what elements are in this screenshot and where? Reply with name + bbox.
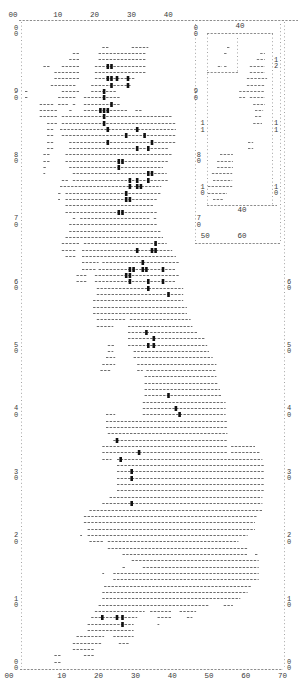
y-tick-label-left: 00 — [14, 25, 19, 38]
inset-y-label: 70 — [197, 215, 202, 228]
y-tick-label-left: 50 — [14, 342, 19, 355]
inset-x-label: 60 — [238, 232, 247, 240]
y-tick-label-right: 00 — [287, 659, 292, 672]
y-tick-label-left: 10 — [14, 596, 19, 609]
y-tick-label-right: 50 — [287, 342, 292, 355]
x-tick-label-top: 00 — [8, 11, 17, 19]
y-tick-label-right: 40 — [287, 405, 292, 418]
y-tick-label-left: 40 — [14, 405, 19, 418]
x-tick-label-bottom: 40 — [168, 672, 177, 680]
tick-labels: 0010203040506070001020304000908070605040… — [0, 0, 298, 691]
x-tick-label-top: 40 — [164, 11, 173, 19]
x-tick-label-top: 10 — [53, 11, 62, 19]
inset-y-label: 12 — [274, 57, 279, 70]
y-tick-label-left: 60 — [14, 279, 19, 292]
x-tick-label-bottom: 10 — [57, 672, 66, 680]
x-tick-label-bottom: 00 — [4, 672, 13, 680]
inset-y-label: 10 — [274, 184, 279, 197]
y-tick-label-left: 90 — [14, 88, 19, 101]
y-tick-label-right: 10 — [287, 596, 292, 609]
inset-y-label: 00 — [194, 25, 199, 38]
y-tick-label-left: 80 — [14, 152, 19, 165]
x-tick-label-bottom: 20 — [94, 672, 103, 680]
y-tick-label-left: 00 — [14, 659, 19, 672]
range-chart: 0010203040506070001020304000908070605040… — [0, 0, 298, 691]
inset-y-label: 80 — [197, 152, 202, 165]
inset-y-label: 11 — [274, 120, 279, 133]
x-tick-label-bottom: 60 — [241, 672, 250, 680]
y-tick-label-right: 60 — [287, 279, 292, 292]
inset-x-label: 50 — [201, 232, 210, 240]
x-tick-label-top: 30 — [127, 11, 136, 19]
inset-y-label: 10 — [200, 184, 205, 197]
y-tick-label-right: 20 — [287, 532, 292, 545]
inset-x-label: 40 — [235, 22, 244, 30]
y-tick-label-left: 20 — [14, 532, 19, 545]
inset-y-label: 11 — [200, 120, 205, 133]
x-tick-label-top: 20 — [90, 11, 99, 19]
x-tick-label-bottom: 50 — [204, 672, 213, 680]
x-tick-label-bottom: 70 — [278, 672, 287, 680]
y-tick-label-left: 30 — [14, 469, 19, 482]
y-tick-label-right: 30 — [287, 469, 292, 482]
inset-y-label: 90 — [194, 88, 199, 101]
inset-x-label: 40 — [238, 206, 247, 214]
y-tick-label-left: 70 — [14, 215, 19, 228]
x-tick-label-bottom: 30 — [131, 672, 140, 680]
